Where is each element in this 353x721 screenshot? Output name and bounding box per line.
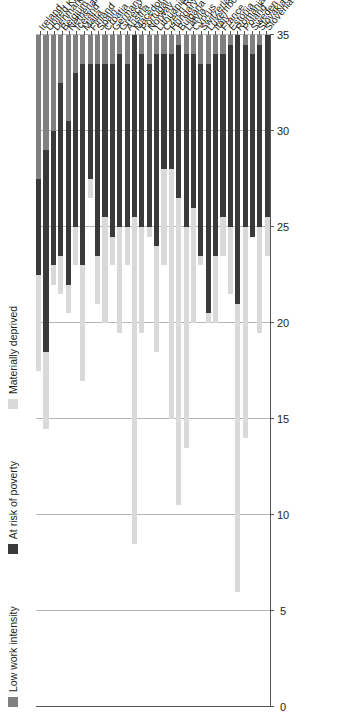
bar-row[interactable] <box>191 35 196 707</box>
bar-segment-at_risk_of_poverty[interactable] <box>43 150 48 352</box>
bar-segment-materially_deprived[interactable] <box>43 352 48 429</box>
bar-segment-low_work_intensity[interactable] <box>220 35 225 54</box>
bar-segment-materially_deprived[interactable] <box>243 227 248 438</box>
bar-row[interactable] <box>125 35 130 707</box>
bar-segment-at_risk_of_poverty[interactable] <box>36 179 41 275</box>
bar-segment-low_work_intensity[interactable] <box>58 35 63 83</box>
bar-segment-low_work_intensity[interactable] <box>228 35 233 45</box>
bar-segment-low_work_intensity[interactable] <box>213 35 218 54</box>
bar-segment-materially_deprived[interactable] <box>125 227 130 265</box>
bar-segment-low_work_intensity[interactable] <box>80 35 85 64</box>
bar-segment-at_risk_of_poverty[interactable] <box>265 35 270 217</box>
bar-segment-at_risk_of_poverty[interactable] <box>176 45 181 199</box>
bar-row[interactable] <box>235 35 240 707</box>
bar-segment-at_risk_of_poverty[interactable] <box>191 54 196 208</box>
bar-segment-low_work_intensity[interactable] <box>73 35 78 73</box>
bar-segment-at_risk_of_poverty[interactable] <box>184 54 189 227</box>
bar-segment-low_work_intensity[interactable] <box>191 35 196 54</box>
bar-segment-at_risk_of_poverty[interactable] <box>243 45 248 227</box>
bar-segment-at_risk_of_poverty[interactable] <box>147 64 152 227</box>
bar-segment-low_work_intensity[interactable] <box>161 35 166 54</box>
bar-segment-low_work_intensity[interactable] <box>139 35 144 54</box>
bar-segment-materially_deprived[interactable] <box>154 246 159 352</box>
bar-segment-at_risk_of_poverty[interactable] <box>110 64 115 237</box>
bar-segment-at_risk_of_poverty[interactable] <box>80 64 85 266</box>
bar-segment-low_work_intensity[interactable] <box>125 35 130 64</box>
bar-row[interactable] <box>228 35 233 707</box>
bar-segment-materially_deprived[interactable] <box>147 227 152 237</box>
bar-row[interactable] <box>198 35 203 707</box>
bar-segment-at_risk_of_poverty[interactable] <box>95 64 100 256</box>
bar-segment-at_risk_of_poverty[interactable] <box>117 54 122 227</box>
bar-row[interactable] <box>213 35 218 707</box>
bar-row[interactable] <box>132 35 137 707</box>
bar-segment-low_work_intensity[interactable] <box>250 35 255 54</box>
bar-segment-at_risk_of_poverty[interactable] <box>206 64 211 314</box>
bar-segment-at_risk_of_poverty[interactable] <box>220 54 225 217</box>
bar-row[interactable] <box>73 35 78 707</box>
bar-segment-materially_deprived[interactable] <box>66 285 71 314</box>
bar-segment-at_risk_of_poverty[interactable] <box>154 54 159 246</box>
bar-segment-materially_deprived[interactable] <box>132 217 137 543</box>
bar-segment-materially_deprived[interactable] <box>36 275 41 371</box>
legend-entry-low_work_intensity[interactable]: Low work intensity <box>8 606 19 707</box>
bar-segment-low_work_intensity[interactable] <box>243 35 248 45</box>
bar-segment-materially_deprived[interactable] <box>198 256 203 266</box>
bar-segment-materially_deprived[interactable] <box>206 313 211 323</box>
bar-segment-at_risk_of_poverty[interactable] <box>198 64 203 256</box>
bar-segment-at_risk_of_poverty[interactable] <box>102 64 107 218</box>
bar-row[interactable] <box>36 35 41 707</box>
bar-segment-materially_deprived[interactable] <box>110 237 115 266</box>
bar-row[interactable] <box>51 35 56 707</box>
bar-segment-at_risk_of_poverty[interactable] <box>58 83 63 256</box>
bar-row[interactable] <box>110 35 115 707</box>
bar-segment-materially_deprived[interactable] <box>117 227 122 333</box>
bar-segment-at_risk_of_poverty[interactable] <box>257 45 262 227</box>
bar-row[interactable] <box>88 35 93 707</box>
bar-segment-low_work_intensity[interactable] <box>184 35 189 54</box>
bar-row[interactable] <box>139 35 144 707</box>
bar-segment-low_work_intensity[interactable] <box>88 35 93 64</box>
bar-segment-at_risk_of_poverty[interactable] <box>250 54 255 236</box>
bar-segment-at_risk_of_poverty[interactable] <box>213 54 218 256</box>
bar-segment-at_risk_of_poverty[interactable] <box>66 121 71 284</box>
bar-row[interactable] <box>95 35 100 707</box>
bar-segment-low_work_intensity[interactable] <box>169 35 174 54</box>
bar-segment-at_risk_of_poverty[interactable] <box>51 131 56 265</box>
bar-segment-low_work_intensity[interactable] <box>51 35 56 131</box>
bar-segment-materially_deprived[interactable] <box>73 227 78 265</box>
bar-segment-low_work_intensity[interactable] <box>66 35 71 121</box>
bar-segment-at_risk_of_poverty[interactable] <box>73 73 78 227</box>
bar-segment-low_work_intensity[interactable] <box>102 35 107 64</box>
bar-row[interactable] <box>117 35 122 707</box>
bar-segment-low_work_intensity[interactable] <box>110 35 115 64</box>
bar-segment-materially_deprived[interactable] <box>58 256 63 294</box>
bar-row[interactable] <box>206 35 211 707</box>
bar-segment-at_risk_of_poverty[interactable] <box>228 45 233 227</box>
legend-entry-at_risk_of_poverty[interactable]: At risk of poverty <box>8 461 19 554</box>
bar-row[interactable] <box>184 35 189 707</box>
bar-segment-at_risk_of_poverty[interactable] <box>139 54 144 227</box>
bar-segment-materially_deprived[interactable] <box>80 265 85 380</box>
bar-segment-low_work_intensity[interactable] <box>257 35 262 45</box>
bar-segment-materially_deprived[interactable] <box>257 227 262 333</box>
bar-segment-at_risk_of_poverty[interactable] <box>169 54 174 169</box>
bar-segment-materially_deprived[interactable] <box>184 227 189 448</box>
bar-segment-low_work_intensity[interactable] <box>36 35 41 179</box>
bar-row[interactable] <box>220 35 225 707</box>
bar-row[interactable] <box>176 35 181 707</box>
bar-segment-at_risk_of_poverty[interactable] <box>132 35 137 217</box>
bar-segment-materially_deprived[interactable] <box>102 217 107 323</box>
bar-row[interactable] <box>58 35 63 707</box>
bar-segment-low_work_intensity[interactable] <box>95 35 100 64</box>
bar-row[interactable] <box>154 35 159 707</box>
bar-segment-low_work_intensity[interactable] <box>147 35 152 64</box>
bar-row[interactable] <box>250 35 255 707</box>
bar-segment-materially_deprived[interactable] <box>88 179 93 198</box>
bar-segment-at_risk_of_poverty[interactable] <box>88 64 93 179</box>
bar-row[interactable] <box>147 35 152 707</box>
bar-segment-materially_deprived[interactable] <box>139 227 144 333</box>
bar-row[interactable] <box>161 35 166 707</box>
bar-row[interactable] <box>169 35 174 707</box>
bar-row[interactable] <box>265 35 270 707</box>
